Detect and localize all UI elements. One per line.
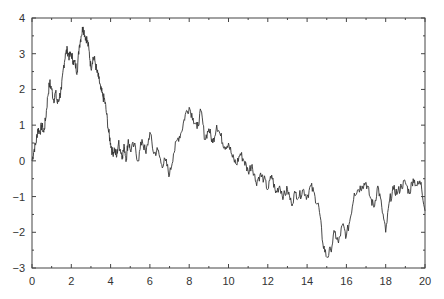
x-tick-label: 14	[301, 275, 313, 287]
x-tick-label: 8	[186, 275, 192, 287]
x-tick-label: 16	[340, 275, 352, 287]
line-chart: 02468101214161820 −3−2−101234	[0, 0, 444, 299]
x-tick-label: 4	[108, 275, 114, 287]
y-tick-label: 4	[19, 12, 25, 24]
x-tick-label: 0	[29, 275, 35, 287]
x-tick-label: 10	[222, 275, 234, 287]
y-tick-label: −3	[12, 262, 25, 274]
y-axis: −3−2−101234	[12, 12, 425, 274]
y-tick-label: 3	[19, 48, 25, 60]
data-line	[32, 27, 425, 258]
y-tick-label: −2	[12, 226, 25, 238]
y-tick-label: 1	[19, 119, 25, 131]
x-tick-label: 20	[419, 275, 431, 287]
x-tick-label: 18	[380, 275, 392, 287]
x-tick-label: 6	[147, 275, 153, 287]
y-tick-label: 2	[19, 83, 25, 95]
x-tick-label: 12	[262, 275, 274, 287]
y-tick-label: −1	[12, 191, 25, 203]
x-tick-label: 2	[68, 275, 74, 287]
y-tick-label: 0	[19, 155, 25, 167]
